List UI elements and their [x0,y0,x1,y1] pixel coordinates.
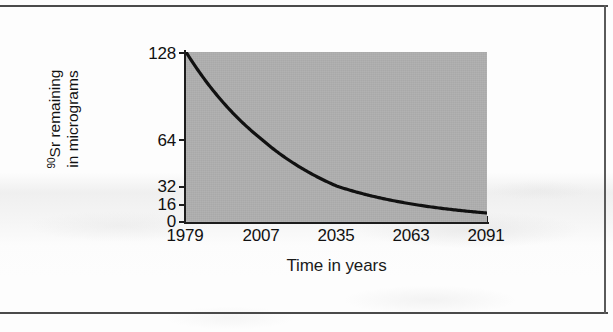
figure-frame: 90Sr remaining in micrograms 128 64 32 1… [0,0,613,332]
x-tick-label-2035: 2035 [302,226,370,246]
y-tick-mark-64 [179,139,186,141]
y-axis-title-superscript: 90 [46,157,57,168]
x-axis-line [184,222,489,224]
plot-area [186,52,487,222]
frame-bottom-rule [0,312,608,314]
x-tick-label-2091: 2091 [452,226,520,246]
y-axis-title-line1: Sr remaining [46,70,63,158]
y-axis-title: 90Sr remaining in micrograms [43,24,81,214]
y-axis-title-line2: in micrograms [64,70,81,167]
x-tick-label-2007: 2007 [227,226,295,246]
y-tick-mark-32 [179,186,186,188]
x-axis-title: Time in years [186,256,487,276]
y-tick-label-128: 128 [128,44,176,64]
frame-top-rule [0,5,608,7]
frame-right-rule [604,5,606,314]
decay-curve-path [186,52,487,213]
decay-curve-svg [186,52,487,222]
y-tick-mark-128 [179,52,186,54]
y-tick-mark-16 [179,204,186,206]
y-tick-label-32: 32 [128,177,176,197]
x-tick-label-2063: 2063 [377,226,445,246]
x-tick-label-1979: 1979 [151,226,219,246]
y-tick-label-64: 64 [128,131,176,151]
